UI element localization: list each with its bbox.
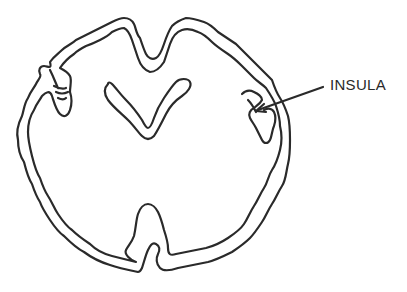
lateral-ventricles-outer bbox=[105, 79, 191, 139]
outer-cortex-outline bbox=[17, 18, 290, 272]
brain-coronal-section-diagram bbox=[0, 0, 407, 292]
insula-fold-right bbox=[242, 91, 276, 143]
insula-label: INSULA bbox=[330, 76, 386, 93]
inner-cortex-outline bbox=[28, 28, 282, 262]
